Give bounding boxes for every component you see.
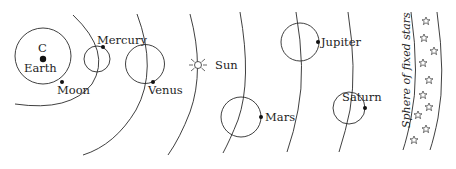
mars-deferent [223,12,246,153]
mars-epicycle [221,97,261,137]
center-label: C [38,41,47,55]
jupiter-deferent [287,12,302,152]
star-icon [420,34,428,42]
star-icon [422,17,430,25]
moon-label: Moon [57,83,91,97]
jupiter-dot [316,40,320,44]
star-icon [422,125,430,133]
earth-label: Earth [24,61,57,75]
venus-label: Venus [147,83,183,97]
sun-icon [189,59,207,71]
star-icon [419,91,427,99]
star-icon [430,47,438,55]
star-icon [414,111,422,119]
mars-label: Mars [265,110,295,124]
mars-dot [259,115,263,119]
saturn-label: Saturn [342,90,382,104]
fixed-stars-outer-sphere [430,12,442,150]
star-icon [425,103,433,111]
ptolemaic-system-diagram: C Earth Moon Mercury Venus Sun Mars Jupi… [0,0,456,169]
sun-label: Sun [215,58,238,72]
star-icon [419,59,427,67]
fixed-stars-label: Sphere of fixed stars [400,12,413,128]
star-icon [410,136,418,144]
saturn-deferent [339,12,353,152]
venus-epicycle [126,45,165,84]
saturn-dot [363,106,367,110]
jupiter-label: Jupiter [320,35,361,49]
star-icon [425,76,433,84]
